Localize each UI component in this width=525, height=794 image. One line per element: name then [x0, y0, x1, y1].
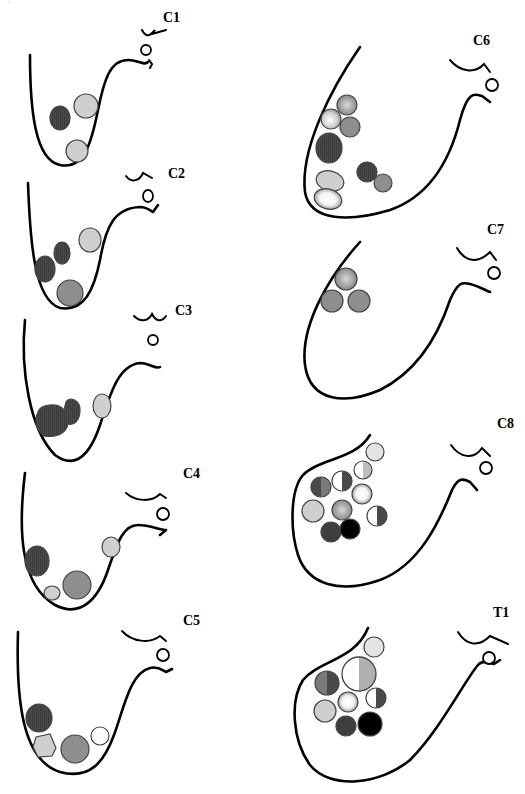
cell-medium: [61, 735, 89, 763]
cell-medium: [63, 571, 91, 599]
panel-label-c8: C8: [497, 416, 514, 431]
cropped-caption-fragment: .: [8, 0, 11, 5]
cell-light-small: [44, 586, 60, 600]
cell-gradient: [335, 268, 357, 290]
pore-circle: [148, 335, 158, 345]
panel-label-c5: C5: [183, 613, 200, 628]
panel-label-c1: C1: [163, 10, 180, 25]
cell-light: [102, 537, 120, 557]
pore-circle: [483, 652, 495, 664]
panel-c8: C8: [293, 416, 515, 586]
mouth-line: [126, 173, 152, 180]
cell-dark: [50, 106, 70, 130]
cell-light: [364, 637, 384, 657]
panel-c7: C7: [304, 222, 504, 398]
cell-light: [66, 140, 88, 162]
mouth-line: [450, 60, 490, 72]
cell-dark: [35, 256, 55, 282]
cell-dark: [336, 716, 356, 736]
cell-dark: [54, 242, 70, 264]
mouth-line: [142, 30, 166, 35]
cell-medium: [348, 290, 370, 312]
cell-medium: [321, 290, 343, 312]
cell-half-white-dark: [332, 471, 352, 491]
lip-line: [149, 60, 152, 68]
cell-light-polygon: [33, 734, 56, 757]
embryo-outline: [22, 473, 166, 609]
cell-half-white-dark: [367, 506, 387, 526]
cell-black: [340, 519, 360, 539]
cell-half-medium-dark: [315, 671, 339, 695]
embryo-outline: [24, 320, 160, 461]
mouth-line: [458, 632, 508, 644]
cell-light: [302, 500, 324, 522]
pore-circle: [143, 190, 153, 202]
mouth-line: [134, 314, 166, 320]
pore-circle: [157, 649, 169, 661]
cell-white: [91, 727, 109, 745]
cell-gradient: [338, 692, 358, 712]
panel-c3: C3: [24, 303, 192, 461]
embryo-outline: [304, 242, 490, 398]
mouth-line: [126, 493, 166, 500]
panel-label-c7: C7: [487, 222, 504, 237]
cell-dark: [321, 522, 341, 542]
cell-dark-cluster: [36, 399, 80, 436]
panel-label-c3: C3: [175, 303, 192, 318]
cell-gradient-medium: [332, 500, 352, 520]
cell-gradient: [352, 484, 372, 504]
cell-medium: [374, 174, 392, 192]
panel-t1: T1: [295, 605, 510, 781]
cell-black: [358, 712, 382, 736]
cell-medium: [57, 280, 83, 306]
cell-medium: [340, 117, 360, 137]
cell-half-white-dark: [366, 688, 386, 708]
cell-light: [314, 700, 336, 722]
panel-c5: C5: [18, 613, 200, 774]
panel-label-c4: C4: [183, 466, 200, 481]
pore-circle: [157, 508, 169, 520]
cell-light: [93, 394, 111, 418]
cell-dark: [25, 546, 49, 576]
cell-light: [366, 443, 384, 461]
embryo-stage-diagram: . C1 C2 C3 C4: [0, 0, 525, 794]
panel-c1: C1: [30, 10, 180, 166]
panel-c6: C6: [304, 33, 498, 217]
cell-dark: [26, 704, 52, 732]
pore-circle: [488, 267, 500, 279]
cell-dark: [357, 162, 377, 182]
cell-light: [74, 94, 98, 118]
panel-c2: C2: [28, 166, 185, 308]
pore-circle: [141, 45, 151, 55]
panel-label-c2: C2: [168, 166, 185, 181]
cell-half-dark-medium: [311, 477, 331, 497]
mouth-line: [451, 445, 490, 456]
mouth-line: [457, 248, 496, 260]
cell-gradient: [337, 95, 357, 115]
pore-circle: [486, 79, 498, 91]
cell-dark: [316, 133, 342, 163]
cell-light: [79, 228, 101, 252]
panel-c4: C4: [22, 466, 200, 609]
panel-label-c6: C6: [473, 33, 490, 48]
cell-half-white-light-large: [342, 657, 376, 691]
cell-gradient: [321, 109, 341, 129]
cell-half-white-light: [354, 461, 372, 479]
panel-label-t1: T1: [493, 605, 509, 620]
pore-circle: [480, 462, 492, 474]
mouth-line: [122, 631, 166, 641]
